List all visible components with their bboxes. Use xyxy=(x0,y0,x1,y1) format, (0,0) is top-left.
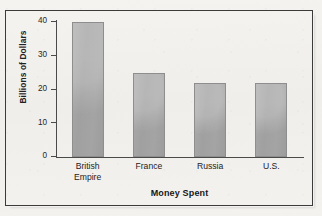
category-label-line-1: British xyxy=(57,161,118,172)
bar-british-empire[interactable] xyxy=(72,22,104,157)
y-tick-label-20: 20 xyxy=(25,85,47,93)
category-label-line-1: France xyxy=(118,161,179,172)
y-axis-title: Billions of Dollars xyxy=(18,21,28,113)
bar-russia[interactable] xyxy=(194,83,226,157)
bar-france[interactable] xyxy=(133,73,165,157)
y-tick-label-10: 10 xyxy=(25,119,47,127)
y-tick-mark-0 xyxy=(51,156,56,157)
x-axis-category-labels: BritishEmpireFranceRussiaU.S. xyxy=(57,161,302,189)
y-tick-mark-20 xyxy=(51,89,56,90)
category-label-line-1: U.S. xyxy=(241,161,302,172)
category-label-france: France xyxy=(118,161,179,172)
category-label-line-2: Empire xyxy=(57,172,118,183)
y-tick-label-40: 40 xyxy=(25,17,47,25)
category-label-u-s: U.S. xyxy=(241,161,302,172)
plot-area xyxy=(57,14,302,157)
y-tick-mark-40 xyxy=(51,21,56,22)
y-tick-label-30: 30 xyxy=(25,51,47,59)
category-label-line-1: Russia xyxy=(180,161,241,172)
y-tick-label-0: 0 xyxy=(25,152,47,160)
y-tick-mark-10 xyxy=(51,122,56,123)
category-label-russia: Russia xyxy=(180,161,241,172)
category-label-british-empire: BritishEmpire xyxy=(57,161,118,182)
bar-u-s[interactable] xyxy=(255,83,287,157)
figure-title: Costs of the War for the Allies xyxy=(0,0,322,2)
x-axis-title: Money Spent xyxy=(57,188,302,198)
y-tick-mark-30 xyxy=(51,55,56,56)
